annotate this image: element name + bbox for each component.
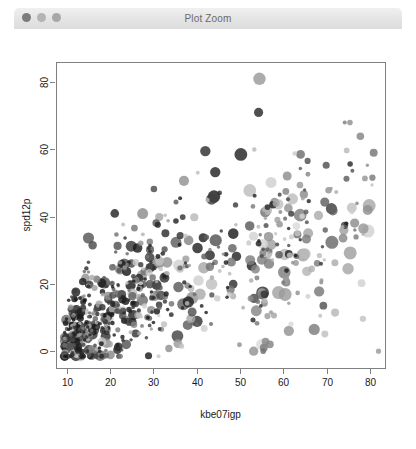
scatter-point [264, 217, 268, 221]
scatter-point [125, 281, 129, 285]
scatter-point [95, 321, 98, 324]
scatter-point [317, 253, 322, 258]
scatter-points-layer [60, 73, 381, 362]
scatter-point [69, 355, 72, 358]
scatter-point [84, 266, 88, 270]
scatter-point [63, 331, 66, 334]
scatter-point [128, 309, 132, 313]
scatter-point [157, 285, 162, 290]
scatter-point [192, 243, 203, 254]
scatter-point [140, 315, 144, 319]
scatter-point [157, 305, 162, 310]
scatter-point [91, 311, 96, 316]
scatter-point [249, 232, 258, 241]
scatter-point [88, 241, 96, 249]
scatter-point [353, 234, 358, 239]
scatter-point [79, 337, 82, 340]
scatter-point [248, 295, 254, 301]
scatter-point [206, 278, 218, 290]
window-title-bar[interactable]: Plot Zoom [14, 8, 402, 30]
scatter-point [129, 330, 133, 334]
scatter-point [204, 234, 209, 239]
scatter-point [321, 245, 324, 248]
scatter-point [283, 237, 287, 241]
scatter-point [120, 348, 123, 351]
scatter-point [109, 312, 114, 317]
scatter-point [155, 254, 160, 259]
scatter-point [116, 343, 120, 347]
scatter-point [269, 310, 273, 314]
scatter-point [261, 291, 268, 298]
scatter-point [131, 301, 135, 305]
scatter-point [360, 316, 366, 322]
scatter-point [340, 225, 344, 229]
scatter-point [169, 301, 175, 307]
scatter-point [72, 289, 77, 294]
scatter-point [281, 281, 285, 285]
scatter-point [188, 308, 197, 317]
y-axis-title: spd12p [21, 198, 32, 231]
scatter-point [77, 348, 81, 352]
scatter-point [361, 233, 364, 236]
scatter-point [249, 347, 258, 356]
scatter-point [81, 327, 84, 330]
scatter-point [63, 320, 69, 326]
scatter-point [331, 259, 338, 266]
scatter-point [255, 321, 260, 326]
scatter-point [112, 264, 115, 267]
scatter-point [70, 338, 73, 341]
scatter-point [138, 262, 143, 267]
scatter-point [228, 244, 237, 253]
scatter-point [164, 291, 169, 296]
scatter-point [101, 292, 105, 296]
scatter-point [271, 258, 275, 262]
scatter-point [305, 158, 311, 164]
scatter-point [358, 279, 366, 287]
scatter-point [116, 303, 120, 307]
scatter-point [163, 214, 167, 218]
scatter-point [245, 255, 255, 265]
scatter-point [220, 229, 223, 232]
scatter-point [208, 248, 211, 251]
scatter-point [305, 172, 310, 177]
scatter-point [121, 318, 127, 324]
scatter-point [183, 234, 187, 238]
scatter-point [104, 284, 108, 288]
scatter-point [294, 230, 300, 236]
scatter-point [159, 267, 164, 272]
scatter-point [99, 304, 105, 310]
scatter-point [163, 274, 167, 278]
scatter-point [131, 322, 138, 329]
scatter-point [284, 326, 294, 336]
scatter-point [217, 191, 222, 196]
scatter-point [62, 343, 67, 348]
scatter-point [137, 208, 148, 219]
scatter-point [112, 333, 116, 337]
scatter-point [181, 306, 184, 309]
scatter-point [319, 262, 323, 266]
scatter-point [282, 188, 289, 195]
scatter-point [201, 253, 207, 259]
scatter-point [131, 274, 136, 279]
scatter-point [304, 209, 309, 214]
scatter-point [274, 217, 280, 223]
scatter-plot: 1020304050607080020406080kbe07igpspd12p [14, 29, 402, 431]
scatter-point [341, 236, 344, 239]
scatter-point [111, 285, 114, 288]
scatter-point [145, 336, 149, 340]
scatter-point [297, 182, 304, 189]
scatter-point [234, 148, 247, 161]
scatter-point [190, 322, 193, 325]
scatter-point [262, 298, 267, 303]
scatter-point [67, 328, 70, 331]
scatter-point [71, 314, 75, 318]
scatter-point [299, 214, 304, 219]
scatter-point [204, 311, 208, 315]
scatter-point [93, 354, 98, 359]
scatter-point [103, 353, 109, 359]
x-axis-tick-label: 20 [105, 377, 117, 388]
scatter-point [149, 261, 152, 264]
scatter-point [139, 281, 143, 285]
scatter-point [137, 294, 140, 297]
scatter-point [241, 306, 245, 310]
